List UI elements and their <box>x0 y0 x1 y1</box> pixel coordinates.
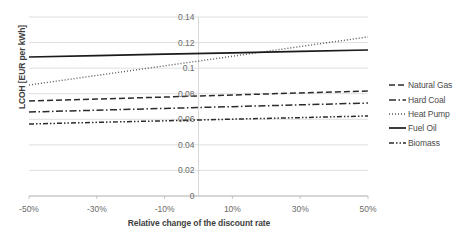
x-axis-title: Relative change of the discount rate <box>29 218 369 228</box>
x-axis-tick-label: -10% <box>155 204 175 214</box>
x-axis-tick-label: -30% <box>87 204 107 214</box>
y-axis-tick-label: 0.06 <box>143 114 195 124</box>
legend-item[interactable]: Natural Gas <box>388 78 467 92</box>
legend-item[interactable]: Biomass <box>388 136 467 150</box>
legend-item-label: Biomass <box>407 138 440 148</box>
x-axis-tick-label: 10% <box>224 204 241 214</box>
legend-line-swatch <box>388 138 407 148</box>
legend-item-label: Natural Gas <box>407 80 452 90</box>
y-axis-tick-label: 0.04 <box>143 140 195 150</box>
y-axis-tick-label: 0 <box>143 191 195 201</box>
legend-item-label: Hard Coal <box>407 95 445 105</box>
legend-line-swatch <box>388 109 407 119</box>
legend-item-label: Heat Pump <box>407 109 450 119</box>
legend-item[interactable]: Hard Coal <box>388 92 467 106</box>
chart-container: 00.020.040.060.080.10.120.14 -50%-30%-10… <box>0 0 467 241</box>
x-axis-tick-label: -50% <box>19 204 39 214</box>
x-axis-tick-label: 30% <box>292 204 309 214</box>
y-axis-tick-label: 0.1 <box>143 63 195 73</box>
x-axis-tick-label: 50% <box>359 204 376 214</box>
legend-line-swatch <box>388 123 407 133</box>
chart-legend: Natural GasHard CoalHeat PumpFuel OilBio… <box>388 78 467 150</box>
legend-line-swatch <box>388 95 407 105</box>
legend-item[interactable]: Fuel Oil <box>388 121 467 135</box>
y-axis-tick-label: 0.14 <box>143 12 195 22</box>
y-axis-title: LCOH [EUR per kWh] <box>17 0 27 137</box>
legend-line-swatch <box>388 80 407 90</box>
legend-item[interactable]: Heat Pump <box>388 107 467 121</box>
legend-item-label: Fuel Oil <box>407 123 437 133</box>
y-axis-tick-label: 0.08 <box>143 89 195 99</box>
y-axis-tick-label: 0.02 <box>143 165 195 175</box>
y-axis-tick-label: 0.12 <box>143 38 195 48</box>
